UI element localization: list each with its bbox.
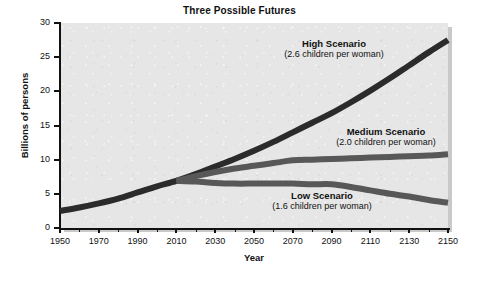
x-tick-label: 2030 xyxy=(195,236,235,246)
annotation-high-scenario: High Scenario (2.6 children per woman) xyxy=(244,38,424,60)
x-tick-label: 1970 xyxy=(79,236,119,246)
y-tick-label: 30 xyxy=(24,18,50,27)
x-tick-mark-minor xyxy=(351,228,352,232)
annotation-medium-scenario: Medium Scenario (2.0 children per woman) xyxy=(300,126,472,148)
x-tick-label: 2110 xyxy=(350,236,390,246)
x-tick-mark-minor xyxy=(118,228,119,232)
x-tick-mark-minor xyxy=(273,228,274,232)
x-tick-mark xyxy=(292,228,294,233)
x-tick-mark-minor xyxy=(235,228,236,232)
annotation-low-subtitle: (1.6 children per woman) xyxy=(232,201,412,212)
y-tick-label: 0 xyxy=(24,223,50,232)
x-tick-mark-minor xyxy=(390,228,391,232)
x-tick-mark xyxy=(214,228,216,233)
y-tick-mark xyxy=(54,90,59,92)
x-tick-label: 2070 xyxy=(273,236,313,246)
y-tick-mark xyxy=(54,193,59,195)
y-tick-mark xyxy=(54,56,59,58)
x-tick-mark xyxy=(98,228,100,233)
x-tick-mark xyxy=(447,228,449,233)
x-tick-label: 1950 xyxy=(40,236,80,246)
chart-title: Three Possible Futures xyxy=(0,5,479,16)
x-tick-mark xyxy=(369,228,371,233)
annotation-high-title: High Scenario xyxy=(244,38,424,49)
x-tick-mark-minor xyxy=(157,228,158,232)
y-tick-mark xyxy=(54,159,59,161)
x-tick-label: 2090 xyxy=(312,236,352,246)
x-tick-mark xyxy=(408,228,410,233)
x-tick-label: 1990 xyxy=(118,236,158,246)
x-tick-label: 2050 xyxy=(234,236,274,246)
x-axis-title: Year xyxy=(60,252,448,263)
x-tick-mark xyxy=(137,228,139,233)
annotation-high-subtitle: (2.6 children per woman) xyxy=(244,49,424,60)
y-tick-mark xyxy=(54,125,59,127)
x-tick-mark xyxy=(175,228,177,233)
x-tick-mark-minor xyxy=(196,228,197,232)
x-tick-label: 2010 xyxy=(156,236,196,246)
x-tick-mark-minor xyxy=(312,228,313,232)
annotation-low-title: Low Scenario xyxy=(232,190,412,201)
y-tick-mark xyxy=(54,22,59,24)
x-tick-label: 2130 xyxy=(389,236,429,246)
x-tick-mark xyxy=(253,228,255,233)
chart-figure: Three Possible Futures 051015202530 1950… xyxy=(0,0,479,281)
x-tick-mark-minor xyxy=(79,228,80,232)
annotation-medium-title: Medium Scenario xyxy=(300,126,472,137)
x-tick-mark-minor xyxy=(429,228,430,232)
x-tick-mark xyxy=(59,228,61,233)
annotation-low-scenario: Low Scenario (1.6 children per woman) xyxy=(232,190,412,212)
annotation-medium-subtitle: (2.0 children per woman) xyxy=(300,137,472,148)
x-tick-mark xyxy=(331,228,333,233)
y-axis-title: Billions of persons xyxy=(19,36,30,196)
x-tick-label: 2150 xyxy=(428,236,468,246)
